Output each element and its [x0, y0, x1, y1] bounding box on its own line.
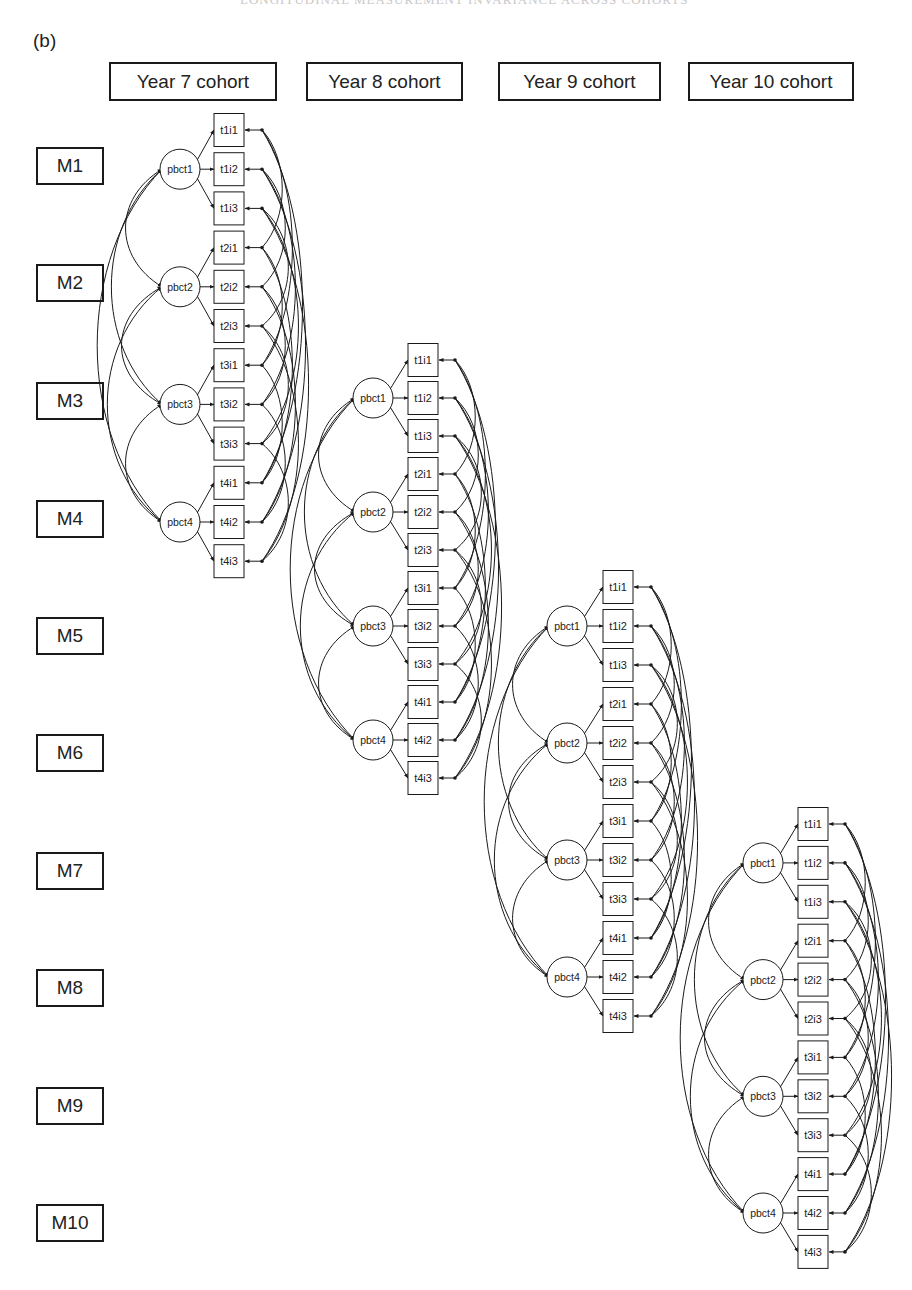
- indicator-label: t1i3: [804, 896, 822, 908]
- residual-dot: [843, 1250, 847, 1254]
- loading-arrow-t2i3: [584, 751, 603, 782]
- residual-dot: [649, 663, 653, 667]
- loading-arrow-t4i1: [197, 483, 214, 514]
- indicator-label: t1i1: [220, 124, 238, 136]
- indicator-label: t4i1: [609, 932, 627, 944]
- indicator-label: t2i1: [804, 935, 822, 947]
- loading-arrow-t2i3: [780, 988, 798, 1019]
- indicator-label: t3i1: [414, 582, 432, 594]
- loading-arrow-t1i1: [390, 360, 408, 390]
- indicator-label: t4i2: [609, 971, 627, 983]
- residual-dot: [453, 510, 457, 514]
- loading-arrow-t3i3: [390, 634, 408, 664]
- residual-dot: [843, 822, 847, 826]
- loading-arrow-t1i1: [197, 130, 214, 161]
- loading-arrow-t1i1: [584, 587, 603, 618]
- residual-dot: [843, 900, 847, 904]
- residual-dot: [453, 472, 457, 476]
- loading-arrow-t1i3: [197, 177, 214, 208]
- residual-dot: [649, 975, 653, 979]
- residual-dot: [260, 285, 264, 289]
- latent-label: pbct2: [360, 506, 386, 518]
- loading-arrow-t4i1: [584, 938, 603, 969]
- indicator-label: t3i2: [804, 1090, 822, 1102]
- residual-dot: [649, 624, 653, 628]
- factor-covariance-1-3: [694, 863, 745, 1096]
- indicator-label: t4i1: [414, 696, 432, 708]
- latent-label: pbct3: [360, 620, 386, 632]
- loading-arrow-t4i3: [584, 985, 603, 1016]
- loading-arrow-t2i3: [390, 520, 408, 550]
- latent-label: pbct4: [360, 734, 386, 746]
- indicator-label: t4i2: [414, 734, 432, 746]
- indicator-label: t4i1: [804, 1168, 822, 1180]
- residual-dot: [649, 897, 653, 901]
- loading-arrow-t3i1: [584, 821, 603, 852]
- residual-covariance-item3-t1-t4: [845, 902, 892, 1252]
- residual-dot: [843, 1017, 847, 1021]
- residual-dot: [843, 1056, 847, 1060]
- residual-dot: [843, 1095, 847, 1099]
- loading-arrow-t3i3: [584, 868, 603, 899]
- latent-label: pbct4: [750, 1207, 776, 1219]
- indicator-label: t2i2: [414, 506, 432, 518]
- residual-dot: [649, 1014, 653, 1018]
- indicator-label: t2i2: [804, 974, 822, 986]
- residual-dot: [260, 442, 264, 446]
- residual-dot: [260, 246, 264, 250]
- indicator-label: t2i1: [609, 698, 627, 710]
- indicator-label: t3i2: [414, 620, 432, 632]
- residual-dot: [260, 363, 264, 367]
- residual-dot: [649, 702, 653, 706]
- loading-arrow-t3i3: [780, 1104, 798, 1135]
- indicator-label: t1i1: [804, 818, 822, 830]
- indicator-label: t3i3: [804, 1129, 822, 1141]
- factor-covariance-1-4: [290, 398, 355, 740]
- residual-dot: [649, 780, 653, 784]
- residual-dot: [843, 1211, 847, 1215]
- factor-covariance-1-2: [126, 169, 162, 287]
- latent-label: pbct2: [750, 974, 776, 986]
- residual-dot: [453, 738, 457, 742]
- residual-dot: [453, 434, 457, 438]
- indicator-label: t1i2: [220, 163, 238, 175]
- residual-dot: [260, 167, 264, 171]
- residual-covariance-item2-t1-t3: [845, 863, 878, 1096]
- factor-covariance-2-3: [122, 287, 163, 405]
- latent-label: pbct1: [554, 620, 580, 632]
- residual-covariance-item2-t1-t4: [262, 169, 306, 522]
- loading-arrow-t2i1: [780, 941, 798, 972]
- indicator-label: t3i1: [220, 359, 238, 371]
- loading-arrow-t4i1: [390, 702, 408, 732]
- indicator-label: t3i2: [220, 398, 238, 410]
- factor-covariance-1-3: [498, 626, 549, 860]
- latent-label: pbct1: [750, 857, 776, 869]
- indicator-label: t1i2: [609, 620, 627, 632]
- loading-arrow-t1i3: [390, 406, 408, 436]
- factor-covariance-1-4: [97, 169, 162, 522]
- latent-label: pbct2: [167, 281, 193, 293]
- loading-arrow-t3i3: [197, 412, 214, 443]
- loading-arrow-t1i1: [780, 824, 798, 855]
- residual-covariance-item3-t1-t4: [262, 208, 309, 561]
- indicator-label: t3i3: [220, 438, 238, 450]
- cfa-model-4: t1i1t1i2t1i3t2i1t2i2t2i3t3i1t3i2t3i3t4i1…: [680, 808, 891, 1269]
- factor-covariance-2-3: [509, 743, 550, 860]
- residual-covariance-item2-t1-t3: [262, 169, 295, 404]
- indicator-label: t4i3: [414, 772, 432, 784]
- residual-dot: [843, 978, 847, 982]
- latent-label: pbct3: [750, 1090, 776, 1102]
- residual-dot: [453, 358, 457, 362]
- indicator-label: t1i2: [804, 857, 822, 869]
- residual-covariance-item2-t1-t4: [651, 626, 695, 977]
- indicator-label: t1i1: [414, 354, 432, 366]
- latent-label: pbct2: [554, 737, 580, 749]
- indicator-label: t2i2: [220, 281, 238, 293]
- loading-arrow-t3i1: [780, 1057, 798, 1088]
- indicator-label: t2i3: [804, 1013, 822, 1025]
- loading-arrow-t3i1: [390, 588, 408, 618]
- indicator-label: t2i3: [220, 320, 238, 332]
- indicator-label: t3i3: [414, 658, 432, 670]
- latent-label: pbct1: [360, 392, 386, 404]
- latent-label: pbct4: [167, 516, 193, 528]
